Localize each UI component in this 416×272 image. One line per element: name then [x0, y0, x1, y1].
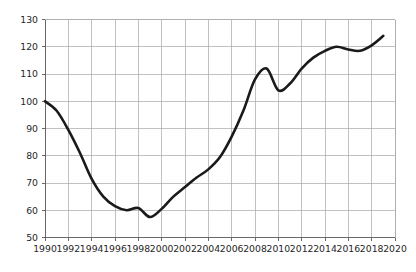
y-axis-tick-label: 60 — [26, 205, 38, 216]
x-axis-tick-label: 1994 — [80, 243, 104, 254]
x-axis-tick-label: 2000 — [150, 243, 174, 254]
y-axis-tick-label: 130 — [20, 14, 38, 25]
y-axis-tick-label: 50 — [26, 232, 38, 243]
y-axis-tick-label: 80 — [26, 150, 38, 161]
y-axis-tick-label: 100 — [20, 96, 38, 107]
x-axis-tick-label: 2010 — [266, 243, 290, 254]
line-chart: 5060708090100110120130 19901992199419961… — [0, 0, 416, 272]
x-axis-tick-label: 2014 — [313, 243, 337, 254]
y-axis-tick-label: 70 — [26, 177, 38, 188]
x-axis-tick-label: 1998 — [126, 243, 150, 254]
x-axis-tick-label: 2012 — [290, 243, 314, 254]
x-axis-tick-label: 2018 — [360, 243, 384, 254]
x-axis-tick-label: 1996 — [103, 243, 127, 254]
x-axis-tick-label: 1992 — [56, 243, 80, 254]
x-axis-tick-labels: 1990199219941996199820002002200420062008… — [33, 243, 407, 254]
x-axis-tick-label: 2006 — [220, 243, 244, 254]
x-axis-tick-label: 2002 — [173, 243, 197, 254]
x-axis-tick-label: 2020 — [383, 243, 407, 254]
chart-container: 5060708090100110120130 19901992199419961… — [0, 0, 416, 272]
y-axis-tick-label: 110 — [20, 68, 38, 79]
x-axis-tick-label: 2008 — [243, 243, 267, 254]
x-axis-tick-label: 1990 — [33, 243, 57, 254]
y-axis-tick-label: 90 — [26, 123, 38, 134]
x-axis-tick-label: 2004 — [196, 243, 220, 254]
y-axis-tick-label: 120 — [20, 41, 38, 52]
x-axis-tick-label: 2016 — [336, 243, 360, 254]
